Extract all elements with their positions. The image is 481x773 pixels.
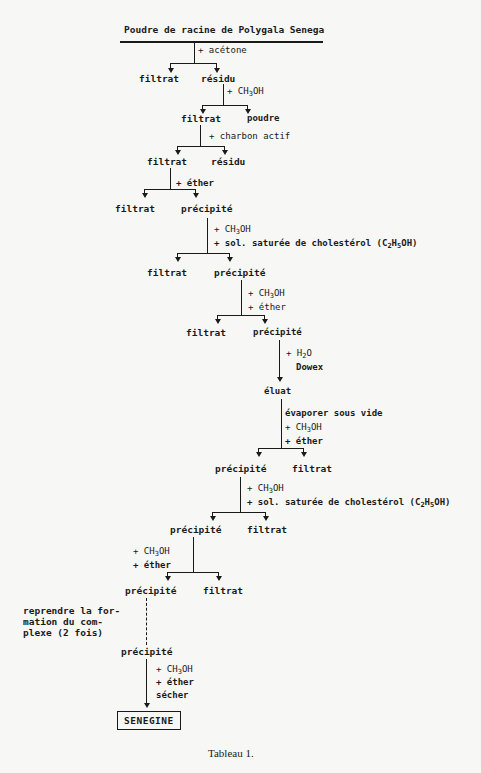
final-product-box: SENEGINE <box>117 711 181 730</box>
repeat-note: plexe (2 fois) <box>23 627 103 638</box>
reagent-label: + CH3OH <box>247 483 284 497</box>
repeat-note: mation du com- <box>23 616 103 627</box>
product-label: précipité <box>215 463 266 474</box>
reagent-label: + sol. saturée de cholestérol (C2H5OH) <box>247 497 451 511</box>
reagent-label: sécher <box>156 690 189 701</box>
reagent-label: + CH3OH <box>214 224 251 238</box>
branch-line <box>167 572 219 573</box>
product-label: filtrat <box>247 524 287 535</box>
arrow-down-icon <box>175 257 181 262</box>
reagent-label: + CH3OH <box>227 86 264 100</box>
arrow-down-icon <box>165 576 171 581</box>
reagent-label: + CH3OH <box>156 664 193 678</box>
connector <box>240 477 241 513</box>
connector <box>194 42 195 64</box>
branch-line <box>217 315 265 316</box>
reagent-label: + CH3OH <box>133 546 170 560</box>
connector <box>193 537 194 573</box>
branch-line <box>212 512 266 513</box>
connector <box>200 125 201 147</box>
arrow-down-icon <box>256 452 262 457</box>
reagent-label: + H2O <box>286 348 312 362</box>
branch-line <box>170 63 217 64</box>
arrow-down-icon <box>222 150 228 155</box>
branch-line <box>177 253 230 254</box>
product-label: filtrat <box>147 267 187 278</box>
reagent-label: + sol. saturée de cholestérol (C2H5OH) <box>214 238 418 252</box>
reagent-label: évaporer sous vide <box>285 408 383 419</box>
product-label: précipité <box>253 327 302 338</box>
arrow-down-icon <box>227 257 233 262</box>
dashed-connector <box>146 598 147 645</box>
reagent-label: + éther <box>133 560 171 571</box>
repeat-note: reprendre la for- <box>23 605 120 616</box>
branch-line <box>144 189 196 190</box>
reagent-label: + charbon actif <box>209 131 290 142</box>
arrow-down-icon <box>175 150 181 155</box>
intermediate-label: éluat <box>264 386 291 397</box>
reagent-label: + acétone <box>198 45 247 56</box>
product-label: filtrat <box>115 203 155 214</box>
title-underline <box>120 41 323 43</box>
arrow-down-icon <box>216 576 222 581</box>
flowchart-title: Poudre de racine de Polygala Senega <box>124 24 324 35</box>
connector <box>241 280 242 316</box>
reagent-label: + CH3OH <box>248 288 285 302</box>
product-label: filtrat <box>147 156 187 167</box>
reagent-label: + éther <box>156 677 194 688</box>
product-label: filtrat <box>186 327 226 338</box>
arrow-down-icon <box>277 377 283 382</box>
connector <box>146 659 147 703</box>
arrow-down-icon <box>142 193 148 198</box>
arrow-down-icon <box>193 193 199 198</box>
reagent-label: + CH3OH <box>285 422 322 436</box>
product-label: filtrat <box>292 463 332 474</box>
arrow-down-icon <box>262 319 268 324</box>
product-label: précipité <box>214 267 265 278</box>
connector <box>207 218 208 254</box>
product-label: résidu <box>211 156 245 167</box>
product-label: précipité <box>181 203 232 214</box>
connector <box>223 84 224 106</box>
arrow-down-icon <box>210 516 216 521</box>
reagent-label: + éther <box>176 178 214 189</box>
connector <box>170 168 171 190</box>
arrow-down-icon <box>263 516 269 521</box>
product-label: poudre <box>247 113 280 124</box>
reagent-label: + éther <box>248 302 286 313</box>
connector <box>281 399 282 449</box>
branch-line <box>258 448 304 449</box>
product-label: filtrat <box>203 585 243 596</box>
product-label: filtrat <box>139 73 179 84</box>
arrow-down-icon <box>301 452 307 457</box>
product-label: filtrat <box>181 113 221 124</box>
arrow-down-icon <box>144 703 150 708</box>
branch-line <box>202 105 248 106</box>
table-caption: Tableau 1. <box>208 747 254 759</box>
product-label: précipité <box>170 524 221 535</box>
product-label: résidu <box>201 73 235 84</box>
reagent-label: + éther <box>285 436 323 447</box>
branch-line <box>177 146 225 147</box>
product-label: précipité <box>125 585 176 596</box>
reagent-label: Dowex <box>296 362 323 373</box>
connector <box>279 340 280 377</box>
intermediate-label: précipité <box>121 646 172 657</box>
arrow-down-icon <box>215 319 221 324</box>
